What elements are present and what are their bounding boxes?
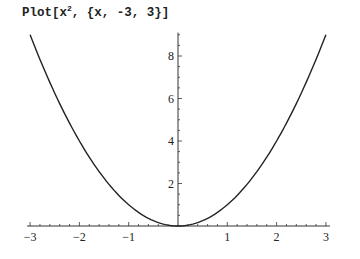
plot-area: −3−2−11232468 (0, 0, 360, 259)
y-tick-label: 6 (168, 92, 174, 106)
axes: −3−2−11232468 (24, 33, 330, 244)
x-tick-label: −1 (122, 230, 135, 244)
x-tick-label: −2 (73, 230, 86, 244)
y-tick-label: 8 (168, 49, 174, 63)
y-tick-label: 2 (168, 177, 174, 191)
y-tick-label: 4 (168, 134, 174, 148)
x-tick-label: −3 (24, 230, 37, 244)
x-tick-label: 3 (323, 230, 329, 244)
x-tick-label: 2 (274, 230, 280, 244)
x-tick-label: 1 (224, 230, 230, 244)
